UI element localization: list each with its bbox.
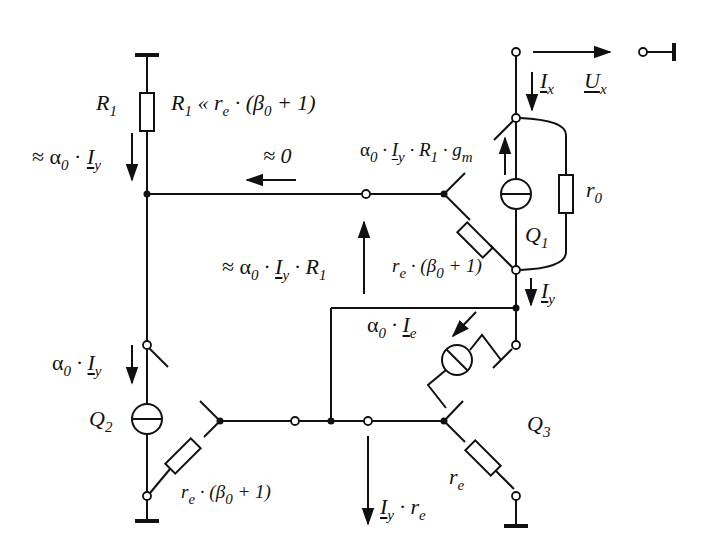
label-r0: r0	[586, 179, 602, 206]
terminal-q3-emitter	[512, 492, 520, 500]
terminal-q1-emitter	[512, 266, 520, 274]
terminal-output	[512, 48, 520, 56]
label-q1: Q1	[525, 224, 548, 251]
label-r1: R1	[96, 92, 117, 119]
terminal-q2-collector	[143, 341, 151, 349]
label-iy: Iy	[541, 280, 555, 307]
label-q2-re: re · (β0 + 1)	[181, 482, 271, 507]
terminal-output-ref	[639, 48, 647, 56]
node-q1-base	[441, 191, 448, 198]
node-q1-emitter	[513, 305, 520, 312]
node-r1	[144, 191, 151, 198]
node-q3-base	[441, 418, 448, 425]
label-r1-current: ≈ α0 · Iy	[32, 146, 101, 173]
label-voltage-r1: ≈ α0 · Iy · R1	[222, 256, 327, 283]
label-r1-condition: R1 « re · (β0 + 1)	[171, 92, 316, 119]
resistor-q1-re	[457, 222, 492, 257]
label-voltage-re: Iy · re	[380, 496, 426, 523]
terminal-bottom-left	[291, 417, 299, 425]
terminal-top-wire	[362, 190, 370, 198]
node-feedback	[328, 418, 335, 425]
resistor-q3-re	[465, 440, 500, 475]
label-q3: Q3	[527, 413, 550, 440]
terminal-q1-collector	[512, 114, 520, 122]
q3-source-arrow	[453, 312, 476, 336]
circuit-diagram: R1 R1 « re · (β0 + 1) ≈ α0 · Iy ≈ 0 α0 ·…	[0, 0, 705, 553]
label-q2: Q2	[89, 408, 112, 435]
node-q2-base	[217, 418, 224, 425]
resistor-q2-re	[165, 438, 200, 473]
terminal-bottom-right	[364, 417, 372, 425]
label-ux: Ux	[584, 70, 607, 97]
label-q3-re: re	[449, 466, 464, 493]
terminal-q2-emitter	[143, 492, 151, 500]
label-ix: Ix	[540, 70, 554, 97]
terminal-q3-collector	[512, 341, 520, 349]
label-q2-current: α0 · Iy	[52, 352, 102, 379]
resistor-r1	[140, 93, 154, 131]
resistor-r0	[559, 175, 573, 213]
label-q1-re: re · (β0 + 1)	[392, 256, 482, 281]
label-approx-zero: ≈ 0	[263, 145, 292, 167]
label-q3-source: α0 · Ie	[367, 314, 417, 341]
label-gm-source: α0 · Iy · R1 · gm	[360, 140, 473, 165]
